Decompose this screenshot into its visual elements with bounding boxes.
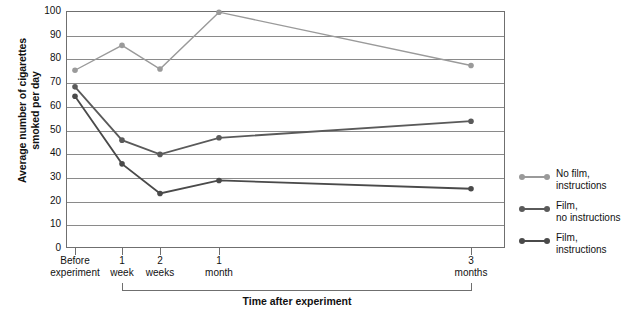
legend-item-3[interactable]: Film,instructions: [519, 233, 623, 258]
data-point: [216, 9, 222, 15]
data-point: [72, 67, 78, 73]
legend: No film,instructionsFilm,no instructions…: [519, 169, 623, 265]
data-point: [468, 118, 474, 124]
legend-label-line: instructions: [556, 180, 623, 192]
legend-swatch-icon: [519, 204, 550, 213]
legend-dot-icon: [519, 174, 525, 180]
data-point: [72, 84, 78, 90]
series-1: [72, 9, 474, 73]
legend-item-2[interactable]: Film,no instructions: [519, 201, 623, 226]
series-line: [75, 12, 471, 70]
data-point: [157, 191, 163, 197]
legend-label: No film,instructions: [556, 168, 623, 191]
legend-label-line: Film,: [556, 200, 623, 212]
data-point: [119, 137, 125, 143]
legend-dot-icon: [519, 206, 525, 212]
series-line: [75, 87, 471, 155]
data-point: [119, 43, 125, 49]
legend-label-line: instructions: [556, 244, 623, 256]
legend-dot-icon: [544, 238, 550, 244]
legend-label: Film,instructions: [556, 232, 623, 255]
x-axis-title: Time after experiment: [122, 295, 472, 307]
legend-item-1[interactable]: No film,instructions: [519, 169, 623, 194]
series-2: [72, 84, 474, 157]
series-lines: [0, 0, 623, 319]
legend-label: Film,no instructions: [556, 200, 623, 223]
legend-dot-icon: [519, 238, 525, 244]
legend-label-line: No film,: [556, 168, 623, 180]
data-point: [216, 178, 222, 184]
data-point: [119, 161, 125, 167]
data-point: [216, 135, 222, 141]
legend-swatch-icon: [519, 172, 550, 181]
data-point: [468, 63, 474, 69]
legend-dot-icon: [544, 206, 550, 212]
legend-dot-icon: [544, 174, 550, 180]
data-point: [72, 94, 78, 100]
data-point: [468, 186, 474, 192]
time-span-bracket: [122, 283, 472, 291]
legend-label-line: Film,: [556, 232, 623, 244]
legend-label-line: no instructions: [556, 212, 623, 224]
data-point: [157, 152, 163, 158]
legend-swatch-icon: [519, 236, 550, 245]
line-chart: Average number of cigarettes smoked per …: [0, 0, 623, 319]
data-point: [157, 66, 163, 72]
